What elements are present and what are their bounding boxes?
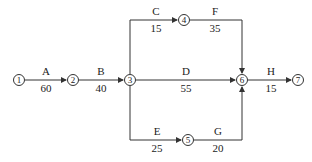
activity-c-duration: 15	[151, 23, 162, 34]
node-1: 1	[13, 74, 25, 86]
activity-b-duration: 40	[96, 83, 107, 94]
node-4: 4	[178, 14, 190, 26]
activity-g-name: G	[214, 126, 222, 137]
activity-b-name: B	[97, 66, 104, 77]
activity-d-duration: 55	[181, 83, 192, 94]
activity-f-name: F	[212, 6, 218, 17]
node-2: 2	[67, 74, 79, 86]
activity-a-duration: 60	[41, 83, 52, 94]
node-6: 6	[236, 74, 248, 86]
activity-d-name: D	[182, 66, 190, 77]
activity-c-name: C	[152, 6, 159, 17]
activity-h-duration: 15	[266, 83, 277, 94]
node-7: 7	[292, 74, 304, 86]
activity-h-name: H	[267, 66, 275, 77]
activity-f-duration: 35	[210, 23, 221, 34]
activity-e-duration: 25	[152, 143, 163, 154]
activity-network-diagram: 1 2 3 4 5 6 7 A 60 B 40 C 15 D 55 E 25 F…	[0, 0, 312, 162]
activity-g-duration: 20	[213, 143, 224, 154]
node-3: 3	[124, 74, 136, 86]
activity-a-name: A	[42, 66, 50, 77]
activity-e-name: E	[154, 126, 161, 137]
node-5: 5	[182, 134, 194, 146]
